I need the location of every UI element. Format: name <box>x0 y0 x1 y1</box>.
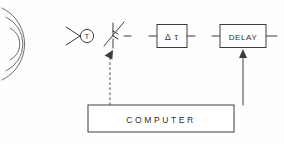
acoustic-wavefronts-icon <box>2 8 25 80</box>
wave-arc-inner <box>10 28 20 60</box>
delta-tau-block[interactable]: Δ τ <box>149 25 195 48</box>
delta-tau-label: Δ τ <box>165 32 179 42</box>
control-line-computer-to-delay <box>239 49 247 105</box>
delay-block[interactable]: DELAY <box>212 25 277 48</box>
computer-label: COMPUTER <box>126 115 195 125</box>
diagram-canvas: T Δ τ DELAY <box>0 0 284 144</box>
transducer-triangle-icon <box>66 27 80 45</box>
control-line-computer-to-attenuator <box>104 50 117 105</box>
computer-block[interactable]: COMPUTER <box>88 105 234 132</box>
solid-arrowhead-icon <box>239 49 247 58</box>
variable-attenuator-symbol <box>104 22 124 48</box>
block-diagram: T Δ τ DELAY <box>0 0 284 144</box>
variable-adjust-diagonal <box>104 22 124 46</box>
variable-tick-lower <box>113 36 118 39</box>
wave-arc-outer <box>2 8 25 80</box>
delay-label: DELAY <box>229 33 258 42</box>
transducer-symbol: T <box>66 27 94 45</box>
transducer-label: T <box>85 33 90 40</box>
